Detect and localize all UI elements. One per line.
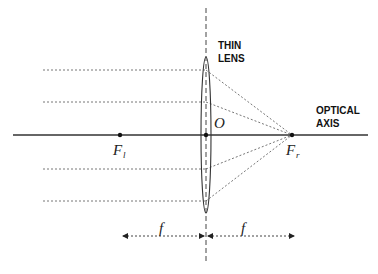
focal-right-subscript: r (296, 150, 300, 160)
focal-right-label: F (285, 142, 296, 158)
thin-lens-diagram: THIN LENS OPTICAL AXIS O F l F r f f (0, 0, 378, 274)
focal-left-label: F (112, 142, 123, 158)
axis-label-line1: OPTICAL (316, 105, 360, 116)
focal-length-label-right: f (241, 220, 247, 236)
focal-point-right (290, 133, 294, 137)
focal-point-left (118, 133, 122, 137)
refracted-ray-4 (206, 135, 292, 201)
lens-label-line2: LENS (218, 53, 245, 64)
optical-center (204, 133, 208, 137)
origin-label: O (214, 115, 225, 131)
focal-length-label-left: f (159, 220, 165, 236)
axis-label-line2: AXIS (316, 118, 340, 129)
lens-label-line1: THIN (218, 40, 241, 51)
focal-left-subscript: l (123, 150, 126, 160)
refracted-ray-3 (206, 135, 292, 169)
